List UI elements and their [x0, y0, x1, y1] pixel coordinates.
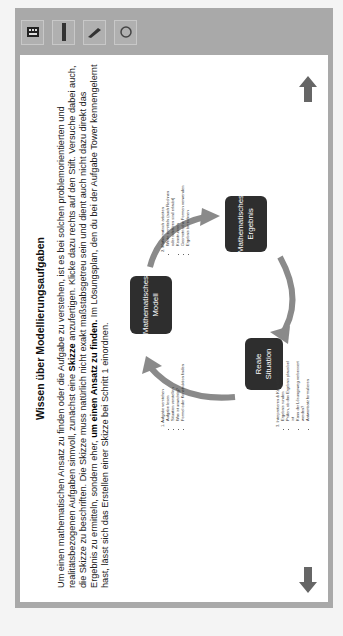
step3-item: Kann der Lösungsweg verbessert werden? — [295, 357, 305, 421]
step2-item: Ergebnis berechnen — [185, 182, 190, 246]
eraser-button[interactable] — [114, 20, 137, 45]
eraser-icon — [119, 25, 133, 39]
step2-item: Werte ermitteln (auch Rechnen oder schät… — [165, 182, 175, 246]
arrow-down-icon — [299, 567, 317, 593]
cycle-arrows — [20, 55, 328, 602]
app-frame: Wissen über Modellierungsaufgaben Um ein… — [15, 8, 333, 608]
keyboard-icon — [26, 26, 40, 38]
toolbar — [15, 8, 333, 56]
pen-icon — [87, 25, 103, 39]
keyboard-button[interactable] — [21, 20, 44, 45]
content-panel: Wissen über Modellierungsaufgaben Um ein… — [20, 55, 328, 602]
arrow-up-icon — [299, 76, 317, 102]
step1-item: Formel oder Konstruktion finden — [180, 357, 185, 421]
node-math-result: Mathematisches Ergebnis — [225, 196, 267, 252]
step2-list: 2. Mathematisch arbeiten Werte ermitteln… — [160, 182, 190, 252]
step3-item: Antwortsatz formulieren — [305, 357, 310, 421]
step3-list: 3. Interpretieren & Kontrollieren Ergebn… — [275, 357, 310, 427]
step1-list: 1. Aufgabe verstehen Aufgabe lesen Situa… — [160, 357, 185, 427]
ruler-button[interactable] — [52, 20, 75, 45]
node-math-model: Mathematisches Modell — [130, 276, 172, 334]
rotated-page: Wissen über Modellierungsaufgaben Um ein… — [20, 55, 328, 602]
pen-button[interactable] — [83, 20, 106, 45]
next-page-button[interactable] — [298, 566, 318, 594]
ruler-icon — [60, 23, 68, 41]
step3-item: Prüfen, ob das Ergebnis plausibel ist — [285, 357, 295, 421]
previous-page-button[interactable] — [298, 75, 318, 103]
